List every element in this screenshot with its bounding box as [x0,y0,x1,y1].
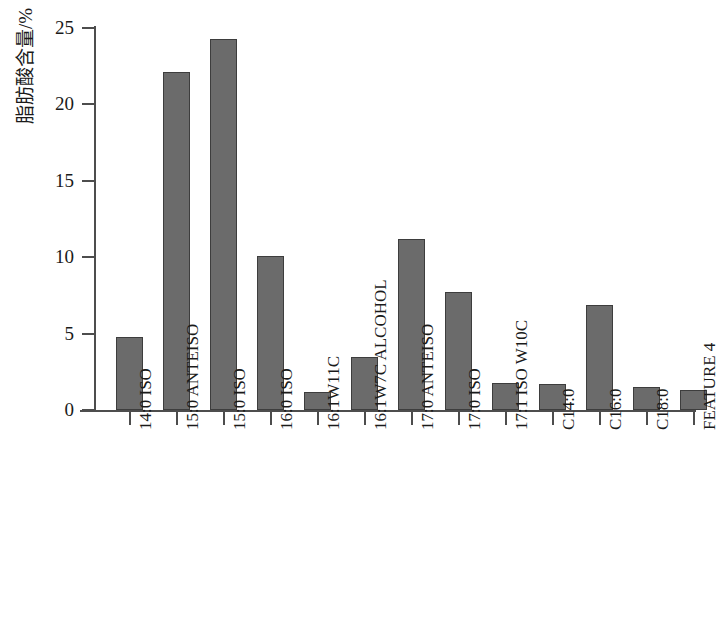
x-tick-mark [411,412,413,425]
y-tick-label: 25 [40,18,74,37]
x-tick-mark [129,412,131,425]
x-axis-label: 16:0 ISO [278,368,295,430]
x-tick-mark [270,412,272,425]
x-tick-mark [693,412,695,425]
x-tick-mark [364,412,366,425]
x-tick-mark [552,412,554,425]
x-axis-label: 14:0 ISO [137,368,154,430]
x-tick-mark [505,412,507,425]
y-tick-label: 20 [40,94,74,113]
y-tick-label: 10 [40,247,74,266]
x-tick-mark [458,412,460,425]
y-tick-mark [82,103,94,105]
x-axis-label: FEATURE 4 [701,343,718,430]
x-tick-mark [317,412,319,425]
x-tick-mark [223,412,225,425]
y-tick-mark [82,333,94,335]
x-axis-label: 17:0 ANTEISO [419,324,436,430]
y-tick-label: 5 [40,324,74,343]
y-tick-mark [82,27,94,29]
bar [210,39,237,410]
x-tick-mark [599,412,601,425]
y-axis-title: 脂肪酸含量/% [10,0,36,156]
y-tick-mark [82,180,94,182]
x-axis-label: 16:1W7C ALCOHOL [372,279,389,430]
x-axis-label: 17:0 ISO [466,368,483,430]
x-axis-label: C18:0 [654,388,671,430]
y-tick-mark [82,256,94,258]
x-axis-label: 15:0 ANTEISO [184,324,201,430]
x-axis-label: 16:1W11C [325,356,342,430]
x-axis-label: 17:1 ISO W10C [513,320,530,430]
y-tick-label: 15 [40,171,74,190]
x-tick-mark [176,412,178,425]
x-axis-label: C14:0 [560,388,577,430]
x-tick-mark [646,412,648,425]
x-axis-label: C16:0 [607,388,624,430]
x-axis-label: 15:0 ISO [231,368,248,430]
y-tick-label: 0 [40,400,74,419]
y-tick-mark [82,409,94,411]
